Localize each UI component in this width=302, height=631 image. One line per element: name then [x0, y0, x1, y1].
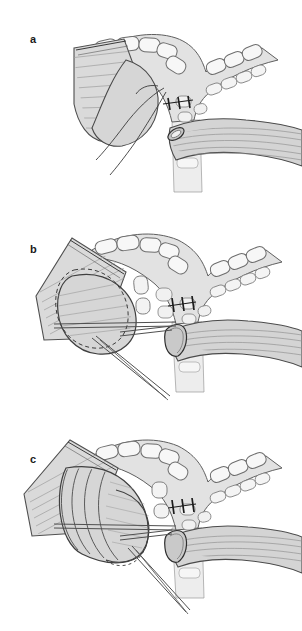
panel-a-illustration: [0, 0, 302, 210]
panel-b: b: [0, 210, 302, 420]
telescoped-bronchus-c: [59, 465, 152, 566]
panel-c: c: [0, 420, 302, 630]
figure-container: a: [0, 0, 302, 631]
panel-c-illustration: [0, 420, 302, 631]
panel-a: a: [0, 0, 302, 210]
panel-b-illustration: [0, 210, 302, 420]
